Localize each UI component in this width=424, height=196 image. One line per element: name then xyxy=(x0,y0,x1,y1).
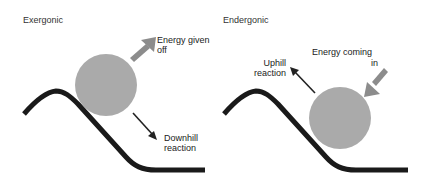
uphill-reaction-label-line2: reaction xyxy=(232,68,286,78)
exergonic-panel: Exergonic Energy given off Downhill reac… xyxy=(0,0,212,196)
downhill-arrow-icon xyxy=(133,113,157,140)
energy-out-arrow-icon xyxy=(130,37,156,62)
downhill-reaction-label-line1: Downhill xyxy=(164,133,198,143)
energy-in-arrow-icon xyxy=(364,68,388,97)
endergonic-title: Endergonic xyxy=(223,15,269,25)
energy-given-off-label-line1: Energy given xyxy=(157,35,210,45)
uphill-arrow-icon xyxy=(290,67,315,93)
ball xyxy=(75,54,137,116)
ball xyxy=(309,87,371,149)
energy-coming-in-label-line1: Energy coming xyxy=(312,47,372,57)
exergonic-title: Exergonic xyxy=(23,15,63,25)
endergonic-scene xyxy=(212,0,424,196)
energy-coming-in-label-line2: in xyxy=(312,58,378,68)
downhill-reaction-label-line2: reaction xyxy=(164,143,196,153)
exergonic-scene xyxy=(0,0,212,196)
endergonic-panel: Endergonic Energy coming in Uphill react… xyxy=(212,0,424,196)
uphill-reaction-label-line1: Uphill xyxy=(232,58,286,68)
energy-given-off-label-line2: off xyxy=(157,45,167,55)
